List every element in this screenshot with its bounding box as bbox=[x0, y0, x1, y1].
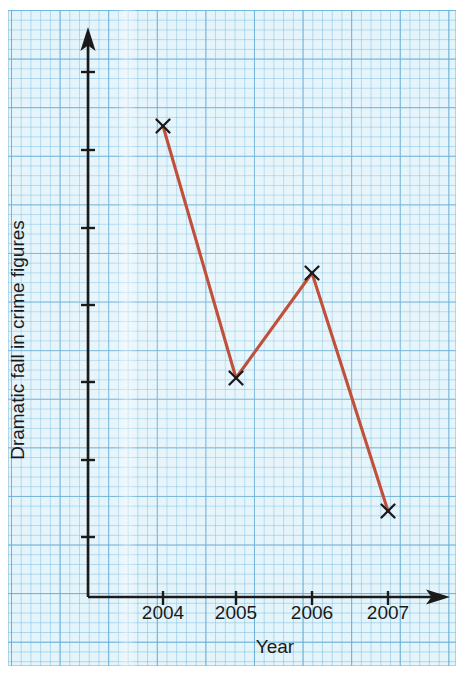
data-point-markers bbox=[157, 120, 395, 518]
x-axis-title: Year bbox=[256, 636, 294, 658]
y-axis-title: Dramatic fall in crime figures bbox=[7, 220, 29, 460]
screenshot-page: 2004 2005 2006 2007 Year Dramatic fall i… bbox=[0, 0, 464, 676]
x-tick-label-2007: 2007 bbox=[367, 602, 409, 624]
x-tick-label-2005: 2005 bbox=[215, 602, 257, 624]
data-line-crime-figures bbox=[163, 126, 388, 511]
x-tick-label-2006: 2006 bbox=[291, 602, 333, 624]
x-tick-label-2004: 2004 bbox=[142, 602, 184, 624]
line-chart-plot bbox=[0, 0, 464, 676]
